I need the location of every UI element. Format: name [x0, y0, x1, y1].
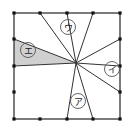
edge-division-dot [91, 11, 94, 14]
edge-division-dot [65, 117, 68, 120]
edge-division-dot [12, 64, 15, 67]
edge-division-dot [38, 11, 41, 14]
figure-background [0, 0, 134, 135]
edge-division-dot [91, 117, 94, 120]
edge-division-dot [38, 117, 41, 120]
edge-division-dot [12, 37, 15, 40]
geometry-figure: アイウエ [0, 0, 134, 135]
edge-division-dot [118, 37, 121, 40]
edge-division-dot [118, 117, 121, 120]
edge-division-dot [65, 11, 68, 14]
edge-division-dot [118, 11, 121, 14]
edge-division-dot [12, 11, 15, 14]
figure-container: アイウエ [0, 0, 134, 135]
edge-division-dot [12, 90, 15, 93]
edge-division-dot [12, 117, 15, 120]
edge-division-dot [118, 90, 121, 93]
